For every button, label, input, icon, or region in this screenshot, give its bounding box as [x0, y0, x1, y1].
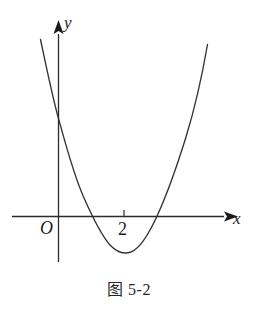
parabola-plot — [0, 0, 258, 270]
figure-container: y x O 2 图 5-2 — [0, 0, 258, 312]
arrow-up-icon — [54, 20, 64, 34]
figure-caption: 图 5-2 — [0, 276, 258, 300]
origin-label: O — [40, 219, 53, 237]
x-tick-label-2: 2 — [118, 220, 127, 238]
y-axis-label: y — [64, 14, 72, 31]
x-axis-label: x — [233, 210, 241, 227]
